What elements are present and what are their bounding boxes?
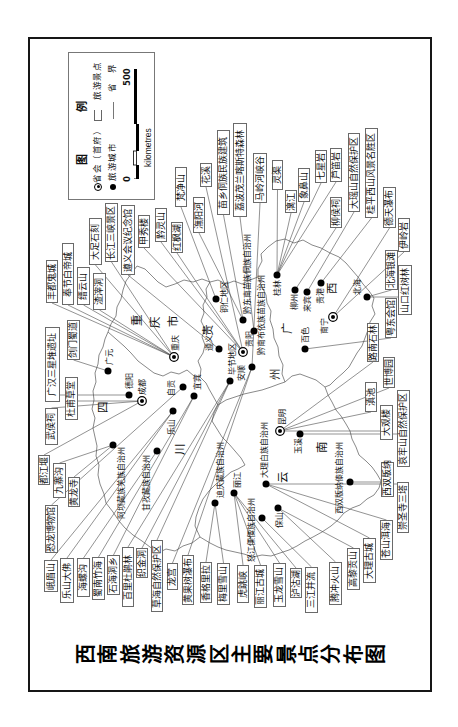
scenic-spot-label: 百里杜鹃林 <box>122 547 134 607</box>
scenic-spot-label: 大足石刻 <box>89 218 102 265</box>
scenic-spot-label: 奉节白帝城 <box>62 243 74 305</box>
scenic-spot-label: 山口红树林 <box>398 265 412 315</box>
capital-symbol-icon <box>94 183 102 191</box>
scenic-spot-label: 龙宫 <box>167 563 178 590</box>
scenic-spot-label: 剑门蜀道 <box>67 320 80 360</box>
legend-label-spot: 旅游景点 <box>92 62 103 100</box>
city-name-label: 柳州 <box>289 294 301 310</box>
city-name-label: 怒江傈僳族自治州 <box>246 498 258 562</box>
scale-end-label: 500 <box>122 68 132 86</box>
legend-label-boundary: 省 界 <box>107 63 118 92</box>
scenic-spot-label: 芦笛岩 <box>330 148 342 182</box>
legend: 图 例 省会（首府） 旅游景点 旅游城市 省 界 0 500 kilometre… <box>68 52 155 200</box>
city-name-label: 丽江 <box>232 472 244 488</box>
scenic-spot-label: 渣滓洞 <box>93 273 106 310</box>
scenic-spot-label: 漓江 <box>285 190 297 213</box>
city-name-label: 自贡 <box>166 380 178 396</box>
province-name-char: 云 <box>276 472 290 483</box>
scenic-spot-label: 广汉三星堆遗址 <box>45 327 60 402</box>
scenic-spot-label: 大理古城 <box>363 538 376 583</box>
scenic-spot-label: 石海洞乡 <box>107 555 120 595</box>
city-name-label: 玉溪 <box>293 438 305 454</box>
province-name-char: 州 <box>268 369 282 380</box>
city-name-label: 来宾 <box>302 296 314 312</box>
city-name-label: 乐山 <box>166 419 178 435</box>
scenic-spot-label: 梵净山 <box>175 167 187 207</box>
scenic-spot-label: 丽江古城 <box>254 565 267 608</box>
scenic-spot-label: 荔波茂兰喀斯特森林 <box>233 123 247 217</box>
scale-start-label: 0 <box>122 176 132 182</box>
scenic-spot-label: 高黎贡山 <box>347 548 360 590</box>
province-name-char: 川 <box>173 444 187 455</box>
scenic-spot-label: 虎跳峡 <box>237 565 249 603</box>
city-name-label: 铜仁地区 <box>219 281 231 313</box>
scenic-spot-label: 苗乡侗族民族建筑 <box>217 130 230 215</box>
scenic-spot-label: 乐山大佛 <box>60 558 74 603</box>
scenic-spot-label: 象鼻山 <box>298 168 310 202</box>
city-name-label: 迪庆藏族自治州 <box>215 442 227 498</box>
scenic-spot-label: 黔灵山 <box>155 208 167 242</box>
scenic-spot-label: 北海银滩 <box>385 250 398 290</box>
scenic-spot-label: 大观楼 <box>380 405 393 440</box>
city-name-label: 保山 <box>274 512 286 528</box>
province-name-char: 市 <box>166 316 180 327</box>
scenic-spot-label: 香格里拉 <box>200 562 212 603</box>
scenic-spot-label: 潕阳河 <box>193 197 205 233</box>
scenic-spot-label: 泸沽湖 <box>290 568 302 598</box>
scenic-spot-label: 马岭河峡谷 <box>253 153 267 203</box>
scenic-spot-label: 玉龙雪山 <box>273 563 286 607</box>
city-name-label: 桂林 <box>272 280 284 296</box>
city-name-label: 宜宾 <box>192 374 204 390</box>
scenic-spot-label: 滇池 <box>365 382 377 412</box>
scenic-spot-label: 九寨沟 <box>53 463 66 498</box>
legend-label-capital: 省会（首府） <box>92 125 103 183</box>
province-name-char: 西 <box>325 283 339 294</box>
scale-bar <box>133 69 140 179</box>
legend-title-char: 图 <box>76 154 89 165</box>
scenic-spot-label: 丰都鬼城 <box>46 260 58 303</box>
scenic-spot-label: 崇圣寺三塔 <box>397 482 409 533</box>
scenic-spot-label: 粤东会馆 <box>385 298 397 338</box>
scenic-spot-label: 世博园 <box>383 357 395 388</box>
boundary-line-symbol-icon <box>113 102 114 119</box>
scenic-spot-label: 德天瀑布 <box>383 187 396 228</box>
province-name-char: 四 <box>96 402 110 413</box>
province-name-char: 重 <box>130 315 144 326</box>
scenic-spot-label: 蜀南竹海 <box>92 557 105 600</box>
scenic-spot-label: 柳侯祠 <box>330 197 342 228</box>
city-name-label: 安顺 <box>236 365 248 381</box>
city-name-label: 贵阳 <box>244 331 256 347</box>
province-name-char: 贵 <box>201 325 215 336</box>
map-page: 西南旅游资源区主要景点分布图 重庆成都贵阳昆明南宁广元德阳自贡宜宾乐山阿坝藏族羌… <box>0 0 458 727</box>
city-name-label: 甘孜藏族自治州 <box>141 455 153 511</box>
scenic-spot-label: 路南石林 <box>367 323 379 362</box>
city-name-label: 北海 <box>352 279 364 295</box>
scenic-spot-label: 织金洞 <box>136 548 148 578</box>
scenic-spot-label: 武侯祠 <box>45 408 58 445</box>
province-name-char: 庆 <box>148 317 162 328</box>
scenic-spot-label: 甲秀楼 <box>138 215 150 248</box>
city-name-label: 昆明 <box>277 409 289 425</box>
scenic-spot-label: 伊岭岩 <box>398 218 410 252</box>
city-name-label: 阿坝藏族羌族自治州 <box>116 447 128 519</box>
scenic-spot-label: 黄龙寺 <box>68 477 80 507</box>
scenic-spot-label: 恐龙博物馆 <box>45 505 58 553</box>
scenic-spot-label: 梅里雪山 <box>217 563 230 605</box>
city-name-label: 西双版纳傣族自治州 <box>334 442 346 514</box>
scenic-spot-label: 西双版纳 <box>381 462 394 497</box>
scenic-spot-label: 杜甫草堂 <box>65 377 78 420</box>
scenic-spot-label: 草海自然保护区 <box>151 540 163 612</box>
scenic-spot-label: 黄果树瀑布 <box>182 555 194 605</box>
scenic-spot-label: 腾冲火山 <box>329 562 342 605</box>
city-name-label: 德阳 <box>124 373 136 389</box>
province-name-char: 广 <box>280 323 294 334</box>
legend-title-char: 例 <box>76 101 89 112</box>
scenic-spot-label: 灵渠 <box>272 160 283 190</box>
legend-label-city: 旅游城市 <box>107 143 118 181</box>
city-name-label: 黔南布依族苗族自治州 <box>256 275 268 355</box>
scenic-spot-label: 长江三峡景区 <box>105 203 118 262</box>
scenic-spot-label: 桂平西山风景名胜区 <box>365 128 378 218</box>
spot-box-symbol-icon <box>94 110 102 121</box>
scale-unit-label: kilometres <box>143 128 153 167</box>
scenic-spot-label: 大瑶山自然保护区 <box>348 133 360 212</box>
